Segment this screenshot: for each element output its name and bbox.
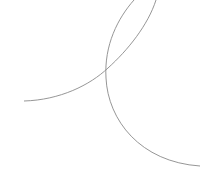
curve-b-line <box>106 0 200 166</box>
curve-a-line <box>24 0 156 101</box>
diagram-canvas <box>0 0 200 188</box>
curves-svg <box>0 0 200 188</box>
